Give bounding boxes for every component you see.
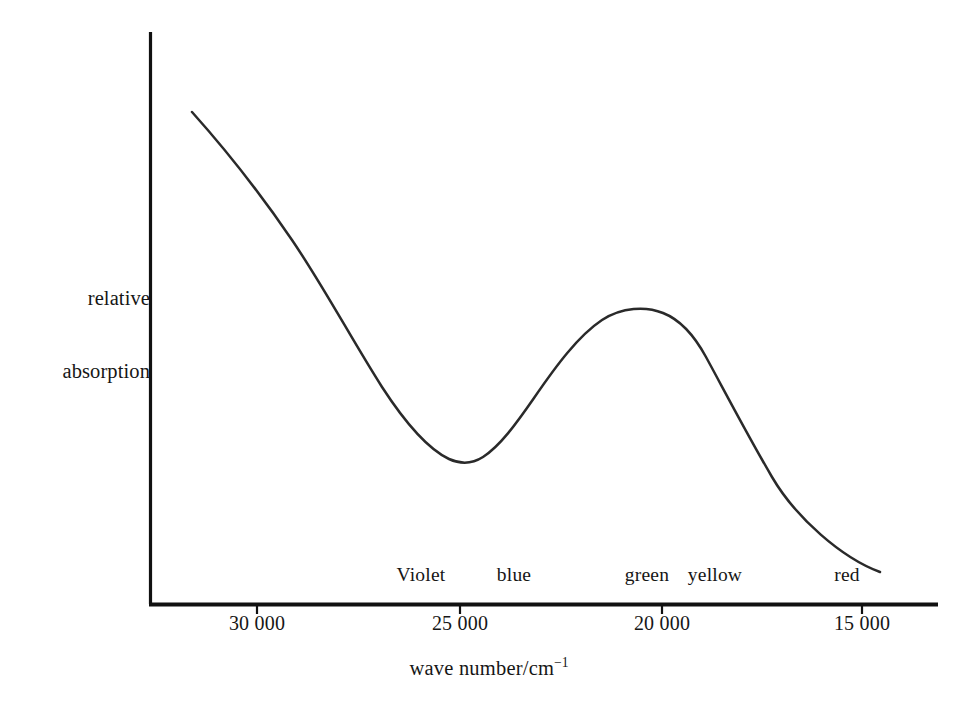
x-axis-title-text: wave number/cm [410,657,555,679]
band-label-green: green [625,563,669,586]
x-axis-title: wave number/cm−1 [0,655,978,680]
x-tick-label-15000: 15 000 [834,612,890,636]
absorption-spectrum-figure: relative absorption 30 000 25 000 20 000… [0,0,978,714]
y-axis-label-line-1: relative [62,286,150,310]
y-axis-label-line-2: absorption [62,359,150,383]
x-tick-label-30000: 30 000 [229,612,285,636]
band-label-violet: Violet [397,563,446,586]
x-tick-label-20000: 20 000 [634,612,690,636]
x-axis-title-exponent: −1 [554,655,568,670]
absorption-curve [192,112,880,572]
x-tick-label-25000: 25 000 [432,612,488,636]
band-label-red: red [834,563,860,586]
y-axis-label: relative absorption [62,238,150,432]
band-label-yellow: yellow [688,563,742,586]
band-label-blue: blue [497,563,531,586]
